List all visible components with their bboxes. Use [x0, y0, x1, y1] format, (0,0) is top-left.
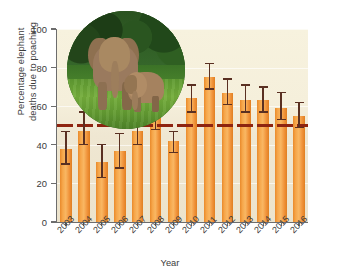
bar	[222, 93, 234, 222]
error-bar-cap-lower	[295, 127, 304, 128]
error-bar	[173, 131, 174, 152]
error-bar-cap-lower	[205, 88, 214, 89]
error-bar-cap-upper	[259, 86, 268, 87]
error-bar-cap-lower	[169, 152, 178, 153]
error-bar-cap-lower	[115, 167, 124, 168]
gridline	[57, 183, 308, 184]
error-bar-cap-upper	[223, 78, 232, 79]
error-bar	[262, 87, 263, 112]
gridline	[57, 145, 308, 146]
error-bar	[245, 85, 246, 112]
calf-elephant-leg-rear	[152, 96, 159, 113]
y-tick	[51, 67, 56, 68]
error-bar-cap-lower	[277, 119, 286, 120]
y-tick-label: 20	[17, 178, 47, 189]
error-bar-cap-upper	[205, 63, 214, 64]
y-tick	[51, 106, 56, 107]
y-tick-label: 60	[17, 101, 47, 112]
error-bar-cap-upper	[97, 144, 106, 145]
bar	[186, 98, 198, 222]
error-bar-cap-upper	[61, 131, 70, 132]
bar	[240, 100, 252, 222]
error-bar-cap-upper	[277, 92, 286, 93]
error-bar-cap-upper	[241, 84, 250, 85]
error-bar-cap-upper	[169, 131, 178, 132]
error-bar	[65, 131, 66, 164]
error-bar-cap-lower	[241, 111, 250, 112]
y-axis-line	[56, 29, 57, 223]
bar	[204, 77, 216, 222]
error-bar-cap-lower	[61, 163, 70, 164]
y-tick	[51, 28, 56, 29]
error-bar-cap-lower	[223, 104, 232, 105]
y-tick	[51, 183, 56, 184]
error-bar	[280, 93, 281, 120]
calf-elephant-trunk	[132, 91, 138, 110]
error-bar-cap-lower	[187, 111, 196, 112]
error-bar	[298, 102, 299, 127]
chart-figure: Percentage elephant deaths due to poachi…	[0, 0, 340, 279]
error-bar	[101, 145, 102, 178]
error-bar-cap-lower	[97, 177, 106, 178]
error-bar-cap-upper	[115, 133, 124, 134]
error-bar-cap-lower	[259, 111, 268, 112]
bar	[293, 116, 305, 222]
y-tick	[51, 144, 56, 145]
error-bar	[191, 85, 192, 112]
elephant-photo-inset	[67, 11, 185, 129]
adult-elephant-trunk	[111, 61, 119, 99]
y-tick	[51, 221, 56, 222]
error-bar-cap-upper	[187, 84, 196, 85]
y-tick-label: 80	[17, 62, 47, 73]
bar	[257, 100, 269, 222]
error-bar-cap-lower	[133, 144, 142, 145]
error-bar	[119, 133, 120, 168]
error-bar	[209, 64, 210, 89]
error-bar-cap-upper	[295, 102, 304, 103]
adult-elephant-leg-front	[98, 82, 107, 110]
y-tick-label: 0	[17, 217, 47, 228]
y-tick-label: 100	[17, 24, 47, 35]
error-bar-cap-lower	[79, 144, 88, 145]
x-axis-title: Year	[0, 258, 340, 268]
y-tick-label: 40	[17, 139, 47, 150]
plot-area	[57, 29, 308, 222]
error-bar	[227, 79, 228, 104]
